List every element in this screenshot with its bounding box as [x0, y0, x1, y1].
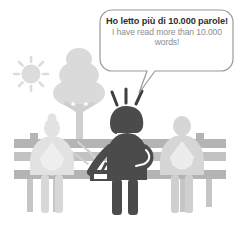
illustration-canvas: Ho letto più di 10.000 parole! I have re… [0, 0, 240, 231]
tree-icon [53, 48, 105, 140]
sun-icon [14, 57, 48, 91]
seated-person-left [30, 114, 74, 214]
excitement-lines [112, 89, 142, 105]
speech-english-text: I have read more than 10.000 words! [104, 28, 230, 48]
speech-italian-text: Ho letto più di 10.000 parole! [104, 16, 230, 26]
speech-bubble-text: Ho letto più di 10.000 parole! I have re… [104, 16, 230, 48]
